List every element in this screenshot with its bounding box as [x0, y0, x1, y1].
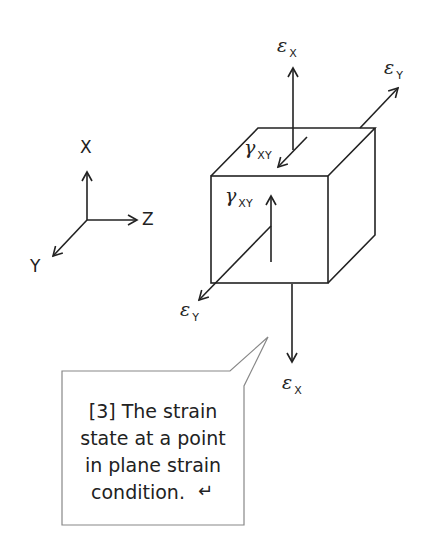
coordinate-axes	[53, 172, 137, 256]
eps-y-top-label: εY	[384, 58, 403, 81]
y-axis-label: Y	[30, 258, 40, 275]
eps-y-front-arrow	[199, 226, 271, 300]
x-axis-label: X	[80, 139, 92, 156]
eps-y-top-arrow	[360, 88, 398, 128]
y-axis-arrow	[53, 220, 87, 256]
callout-line-2: state at a point	[64, 425, 242, 452]
callout-line-3: in plane strain	[64, 452, 242, 479]
z-axis-label: Z	[142, 211, 154, 228]
gamma-xy-front-label: γXY	[225, 186, 253, 209]
callout-text: [3] The strain state at a point in plane…	[64, 398, 242, 506]
callout-line-1: [3] The strain	[64, 398, 242, 425]
eps-x-bottom-label: εX	[282, 373, 302, 396]
callout-line-4: condition.	[64, 479, 242, 506]
eps-y-front-label: εY	[180, 300, 199, 323]
return-icon: ↵	[198, 480, 213, 501]
eps-x-top-label: εX	[277, 36, 297, 59]
gamma-xy-top-label: γXY	[244, 138, 272, 161]
